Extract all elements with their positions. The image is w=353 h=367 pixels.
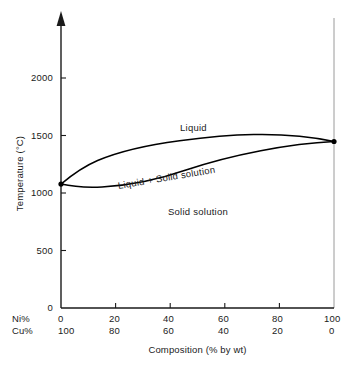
x-tick-label-cu-100: 100 bbox=[58, 326, 98, 336]
x-tick-label-cu-40: 40 bbox=[218, 326, 258, 336]
x-tick-label-ni-40: 40 bbox=[163, 314, 203, 324]
y-tick-label-0: 0 bbox=[13, 303, 53, 313]
x-tick-label-ni-20: 20 bbox=[109, 314, 149, 324]
x-tick-label-cu-60: 60 bbox=[163, 326, 203, 336]
y-tick-label-1000: 1000 bbox=[13, 188, 53, 198]
x-tick-label-ni-100: 100 bbox=[324, 314, 353, 324]
x-axis-title: Composition (% by wt) bbox=[61, 344, 334, 355]
x-axis-ticks bbox=[116, 303, 280, 308]
y-axis-title: Temperature (°C) bbox=[14, 99, 25, 249]
y-axis-arrow-icon bbox=[57, 11, 66, 26]
x-tick-label-ni-60: 60 bbox=[218, 314, 258, 324]
solidus-curve bbox=[61, 142, 334, 188]
region-label-solid-solution: Solid solution bbox=[168, 206, 228, 217]
y-tick-label-2000: 2000 bbox=[13, 73, 53, 83]
region-label-liquid: Liquid bbox=[180, 122, 207, 133]
ni-melting-point-marker bbox=[331, 139, 336, 144]
x-tick-label-cu-0: 0 bbox=[329, 326, 353, 336]
x-tick-label-ni-0: 0 bbox=[58, 314, 98, 324]
x-tick-label-cu-20: 20 bbox=[272, 326, 312, 336]
y-tick-label-500: 500 bbox=[13, 246, 53, 256]
phase-diagram-figure: Temperature (°C) 2000 1500 1000 500 0 Ni… bbox=[0, 0, 353, 367]
y-tick-label-1500: 1500 bbox=[13, 131, 53, 141]
x-row-header-ni: Ni% bbox=[12, 314, 30, 324]
x-tick-label-ni-80: 80 bbox=[272, 314, 312, 324]
cu-melting-point-marker bbox=[58, 182, 63, 187]
y-axis-ticks bbox=[61, 78, 66, 251]
x-tick-label-cu-80: 80 bbox=[109, 326, 149, 336]
x-row-header-cu: Cu% bbox=[12, 326, 33, 336]
